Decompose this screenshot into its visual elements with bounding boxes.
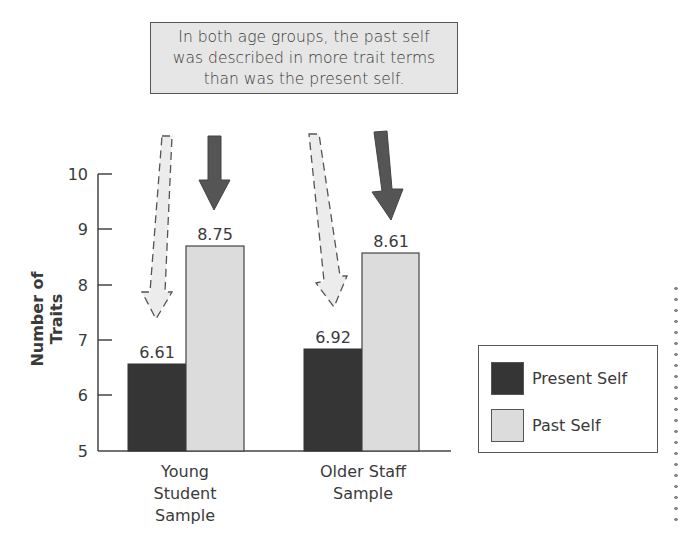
x-label-line: Young xyxy=(125,461,245,483)
legend: Present Self Past Self xyxy=(478,345,658,453)
value-older-past: 8.61 xyxy=(373,232,409,251)
x-label-line: Student xyxy=(125,483,245,505)
x-category-young: Young Student Sample xyxy=(125,461,245,527)
dotted-divider xyxy=(674,283,678,525)
value-older-present: 6.92 xyxy=(315,328,351,347)
y-tick-7: 7 xyxy=(78,331,88,350)
legend-label-present: Present Self xyxy=(532,369,627,388)
bar-older-past xyxy=(362,253,419,451)
x-label-line: Older Staff xyxy=(298,461,428,483)
y-tick-8: 8 xyxy=(78,276,88,295)
x-label-line: Sample xyxy=(125,505,245,527)
dark-arrow-older xyxy=(372,131,403,220)
legend-swatch-past xyxy=(491,409,524,442)
y-tick-10: 10 xyxy=(68,165,88,184)
bar-older-present xyxy=(304,349,362,451)
value-young-present: 6.61 xyxy=(139,343,175,362)
y-tick-labels: 10 9 8 7 6 5 xyxy=(68,165,88,461)
legend-label-past: Past Self xyxy=(532,416,601,435)
y-ticks xyxy=(98,174,112,395)
value-young-past: 8.75 xyxy=(197,225,233,244)
y-tick-9: 9 xyxy=(78,220,88,239)
bar-young-past xyxy=(186,246,244,451)
legend-item-past: Past Self xyxy=(491,409,601,442)
dark-arrow-young xyxy=(199,136,230,210)
x-label-line: Sample xyxy=(298,483,428,505)
legend-item-present: Present Self xyxy=(491,362,627,395)
light-dashed-arrow-older xyxy=(309,134,347,307)
legend-swatch-present xyxy=(491,362,524,395)
x-category-older: Older Staff Sample xyxy=(298,461,428,505)
bar-young-present xyxy=(128,364,186,451)
y-tick-5: 5 xyxy=(78,442,88,461)
light-dashed-arrow-young xyxy=(142,136,172,319)
y-tick-6: 6 xyxy=(78,386,88,405)
